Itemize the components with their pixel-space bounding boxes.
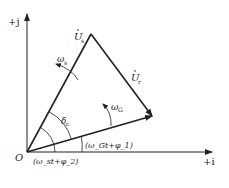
label-omega-s: ω s bbox=[57, 54, 67, 66]
vector-ur bbox=[91, 34, 152, 116]
label-ur: U r bbox=[131, 70, 141, 85]
svg-text:r: r bbox=[138, 78, 141, 85]
svg-text:s: s bbox=[64, 59, 67, 66]
vertical-axis-label: +j bbox=[8, 16, 19, 27]
label-us: U s bbox=[74, 29, 84, 44]
omega-g-rotation-arrow bbox=[103, 104, 111, 126]
origin-label: O bbox=[15, 152, 23, 163]
svg-text:G: G bbox=[118, 106, 123, 113]
label-omega-g: ω G bbox=[111, 102, 123, 113]
horizontal-axis-label: +i bbox=[203, 156, 215, 167]
label-phase-1: (ω_Gt+φ_1) bbox=[85, 141, 133, 150]
vector-diagram: +j +i O U s U r ω s ω G δ c (ω_Gt+φ_1) (… bbox=[0, 0, 229, 188]
arc-phi1 bbox=[81, 137, 82, 152]
label-phase-2: (ω_st+φ_2) bbox=[33, 157, 78, 166]
vector-us bbox=[27, 34, 91, 152]
svg-text:c: c bbox=[66, 120, 70, 127]
svg-text:s: s bbox=[81, 37, 84, 44]
label-delta-c: δ c bbox=[61, 116, 70, 127]
